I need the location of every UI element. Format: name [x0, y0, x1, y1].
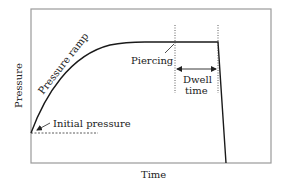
x-axis-label: Time — [141, 169, 166, 180]
pressure-time-diagram: Pressure ramp Piercing Dwell time Initia… — [0, 0, 285, 186]
plot-frame — [31, 9, 271, 163]
y-axis-label: Pressure — [13, 63, 24, 108]
dwell-label: Dwell — [183, 74, 212, 85]
piercing-label: Piercing — [131, 55, 174, 66]
initial-pressure-label: Initial pressure — [53, 118, 131, 129]
pressure-ramp-label: Pressure ramp — [36, 31, 91, 97]
initial-pressure-leader — [37, 123, 50, 130]
piercing-leader — [165, 44, 174, 53]
time-label: time — [185, 85, 208, 96]
